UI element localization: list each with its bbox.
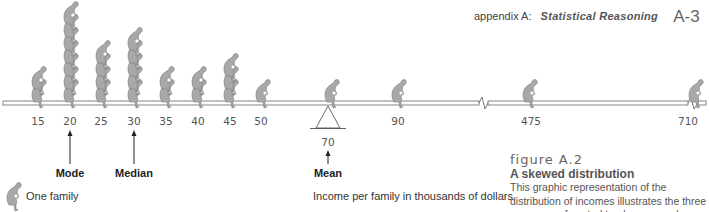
figure-title: A skewed distribution <box>510 167 709 181</box>
svg-text:70: 70 <box>321 136 334 148</box>
mean-label: Mean <box>314 167 342 179</box>
legend-label: One family <box>26 190 79 202</box>
svg-text:475: 475 <box>521 115 541 127</box>
svg-text:25: 25 <box>94 115 107 127</box>
person-sitting-icon <box>7 183 21 211</box>
figure-caption: figure A.2 A skewed distribution This gr… <box>510 153 709 212</box>
mode-arrow <box>68 130 73 164</box>
svg-text:90: 90 <box>391 115 404 127</box>
mode-label: Mode <box>56 167 85 179</box>
svg-text:45: 45 <box>223 115 236 127</box>
svg-text:20: 20 <box>63 115 76 127</box>
x-axis-label: Income per family in thousands of dollar… <box>313 190 513 202</box>
svg-text:40: 40 <box>191 115 204 127</box>
figure-stacks <box>32 2 703 108</box>
svg-text:50: 50 <box>254 115 267 127</box>
figure-description: This graphic representation of the distr… <box>510 181 709 212</box>
figure-number: figure A.2 <box>510 153 709 167</box>
svg-text:710: 710 <box>678 115 698 127</box>
svg-text:35: 35 <box>159 115 172 127</box>
svg-text:30: 30 <box>127 115 140 127</box>
x-tick-labels: 15 20 25 30 35 40 45 50 70 90 475 710 <box>31 115 698 148</box>
axis-bar <box>3 97 706 109</box>
mean-arrow <box>326 150 331 164</box>
fulcrum-icon <box>310 106 346 129</box>
svg-text:15: 15 <box>31 115 44 127</box>
median-arrow <box>132 130 137 164</box>
axis-break-1 <box>479 97 488 109</box>
median-label: Median <box>115 167 153 179</box>
